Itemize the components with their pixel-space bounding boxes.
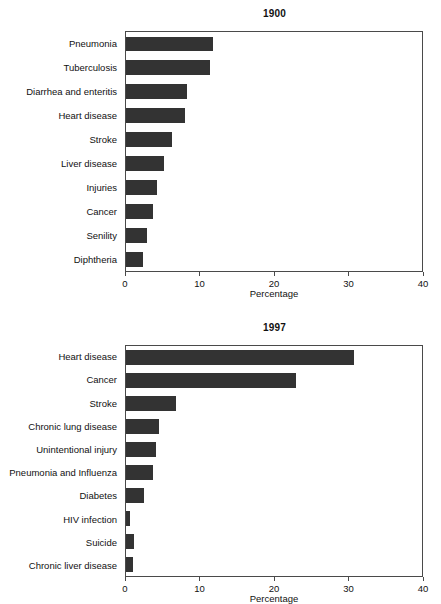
bar-row (126, 152, 422, 176)
y-label: Liver disease (0, 151, 121, 175)
bar (126, 37, 213, 52)
y-label: Chronic liver disease (0, 554, 121, 577)
x-axis-title-1997: Percentage (125, 593, 423, 604)
y-axis-category-labels-1900: Pneumonia Tuberculosis Diarrhea and ente… (0, 31, 121, 272)
chart-1997: 1997 Heart disease Cancer Stroke Chronic… (0, 312, 441, 591)
y-label: Diphtheria (0, 248, 121, 272)
x-axis-tick (423, 577, 424, 581)
x-axis-tick (199, 272, 200, 276)
bar (126, 442, 156, 456)
bar (126, 180, 157, 195)
bar (126, 488, 144, 502)
bar-row (126, 32, 422, 56)
chart-title-1900: 1900 (125, 8, 424, 19)
bar-row (126, 199, 422, 223)
y-label: Cancer (0, 200, 121, 224)
x-axis-tick (125, 577, 126, 581)
bar-row (126, 104, 422, 128)
x-axis-tick (274, 272, 275, 276)
bar (126, 373, 296, 387)
x-axis-tick (348, 272, 349, 276)
y-label: Pneumonia (0, 31, 121, 55)
y-label: Stroke (0, 127, 121, 151)
bar (126, 465, 153, 479)
y-label: Tuberculosis (0, 55, 121, 79)
bar-row (126, 175, 422, 199)
x-axis-tick (423, 272, 424, 276)
y-label: Pneumonia and Influenza (0, 461, 121, 484)
y-label: Chronic lung disease (0, 415, 121, 438)
bar-row (126, 392, 422, 415)
bar (126, 350, 354, 364)
y-label: Heart disease (0, 345, 121, 368)
y-label: Diabetes (0, 484, 121, 507)
bar (126, 252, 143, 267)
y-label: HIV infection (0, 507, 121, 530)
bar (126, 534, 134, 548)
y-axis-category-labels-1997: Heart disease Cancer Stroke Chronic lung… (0, 345, 121, 577)
bar-row (126, 247, 422, 271)
x-axis-tick (274, 577, 275, 581)
y-label: Unintentional injury (0, 438, 121, 461)
bar-row (126, 128, 422, 152)
bar (126, 228, 147, 243)
bar (126, 419, 159, 433)
bar (126, 84, 187, 99)
bar (126, 557, 133, 571)
x-axis-title-1900: Percentage (125, 288, 423, 299)
chart-title-1997: 1997 (125, 322, 424, 333)
bar (126, 396, 176, 410)
bar-row (126, 507, 422, 530)
x-axis-tick (348, 577, 349, 581)
y-label: Senility (0, 224, 121, 248)
bar-row (126, 438, 422, 461)
y-label: Suicide (0, 531, 121, 554)
bar (126, 132, 172, 147)
plot-area-1997 (125, 345, 423, 577)
bar (126, 108, 185, 123)
y-label: Heart disease (0, 103, 121, 127)
bar-rows-1997 (126, 346, 422, 576)
bar-row (126, 223, 422, 247)
bar-row (126, 369, 422, 392)
bar-row (126, 415, 422, 438)
bar (126, 204, 153, 219)
x-axis-tick (125, 272, 126, 276)
y-label: Cancer (0, 368, 121, 391)
bar (126, 156, 164, 171)
chart-1900: 1900 Pneumonia Tuberculosis Diarrhea and… (0, 0, 441, 305)
bar (126, 511, 130, 525)
bar-row (126, 346, 422, 369)
bar-rows-1900 (126, 32, 422, 271)
y-label: Diarrhea and enteritis (0, 79, 121, 103)
plot-area-1900 (125, 31, 423, 272)
bar-row (126, 461, 422, 484)
bar-row (126, 80, 422, 104)
x-axis-tick (199, 577, 200, 581)
y-label: Stroke (0, 391, 121, 414)
bar-row (126, 553, 422, 576)
bar-row (126, 484, 422, 507)
bar-row (126, 56, 422, 80)
y-label: Injuries (0, 176, 121, 200)
bar-row (126, 530, 422, 553)
bar (126, 60, 210, 75)
